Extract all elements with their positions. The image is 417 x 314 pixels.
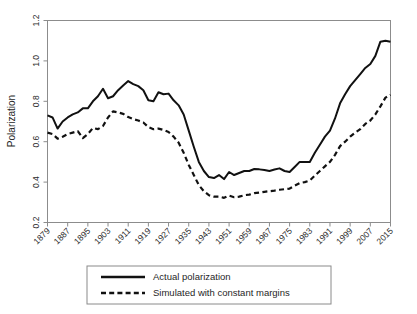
y-tick-label: 0.2 — [31, 216, 41, 228]
y-axis-title: Polarization — [6, 95, 17, 147]
y-axis-ticks: 0.20.40.60.81.01.2 — [31, 14, 48, 228]
plot-area-border — [48, 21, 391, 223]
x-tick-label: 1911 — [113, 226, 133, 246]
y-tick-label: 1.2 — [31, 14, 41, 26]
plot-frame — [48, 21, 391, 223]
x-tick-label: 2007 — [354, 226, 375, 247]
x-tick-label: 1975 — [274, 226, 295, 247]
x-tick-label: 1919 — [132, 226, 153, 247]
x-tick-label: 1983 — [294, 226, 315, 247]
y-tick-label: 0.8 — [31, 95, 41, 107]
chart-canvas: 0.20.40.60.81.01.2 187918871895190319111… — [0, 0, 417, 314]
legend-label-2: Simulated with constant margins — [153, 287, 290, 298]
polarization-line-chart-figure: 0.20.40.60.81.01.2 187918871895190319111… — [0, 0, 417, 314]
x-axis-ticks: 1879188718951903191119191927193519431951… — [31, 223, 395, 247]
y-tick-label: 0.6 — [31, 136, 41, 148]
x-tick-label: 1927 — [153, 226, 174, 247]
x-tick-label: 1943 — [193, 226, 214, 247]
x-tick-label: 1951 — [213, 226, 234, 247]
y-tick-label: 1.0 — [31, 55, 41, 67]
legend-label-1: Actual polarization — [153, 271, 231, 282]
x-tick-label: 1967 — [253, 226, 274, 247]
x-tick-label: 1991 — [314, 226, 335, 247]
x-tick-label: 1903 — [92, 226, 113, 247]
x-tick-label: 1999 — [334, 226, 355, 247]
x-tick-label: 2015 — [374, 226, 395, 247]
x-tick-label: 1887 — [52, 226, 73, 247]
chart-legend: Actual polarizationSimulated with consta… — [87, 266, 331, 304]
y-tick-label: 0.4 — [31, 176, 41, 188]
x-tick-label: 1959 — [233, 226, 254, 247]
x-tick-label: 1895 — [72, 226, 93, 247]
x-tick-label: 1935 — [173, 226, 194, 247]
